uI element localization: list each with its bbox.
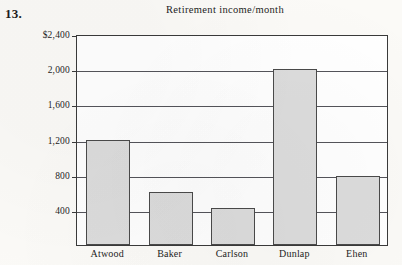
problem-number: 13. bbox=[5, 6, 22, 22]
x-axis-label-atwood: Atwood bbox=[90, 248, 123, 259]
y-axis-tick-label: 1,600 bbox=[14, 100, 70, 110]
x-axis-label-baker: Baker bbox=[157, 248, 182, 259]
bar-series bbox=[77, 36, 387, 245]
x-axis-label-carlson: Carlson bbox=[216, 248, 249, 259]
y-axis-tick-label: 2,000 bbox=[14, 65, 70, 75]
bar-carlson bbox=[211, 208, 255, 245]
x-axis-label-ehen: Ehen bbox=[346, 248, 367, 259]
y-axis-tick-label: $2,400 bbox=[14, 30, 70, 40]
y-axis-tick-label: 800 bbox=[14, 171, 70, 181]
x-axis-label-dunlap: Dunlap bbox=[279, 248, 310, 259]
y-axis-tick-labels: $2,4002,0001,6001,200800400 bbox=[14, 35, 70, 246]
y-axis-tick-label: 1,200 bbox=[14, 136, 70, 146]
bar-atwood bbox=[86, 140, 130, 246]
bar-ehen bbox=[336, 176, 380, 245]
x-axis-tick-labels: AtwoodBakerCarlsonDunlapEhen bbox=[76, 248, 388, 264]
plot-area bbox=[76, 35, 388, 246]
y-axis-tick-label: 400 bbox=[14, 206, 70, 216]
bar-dunlap bbox=[273, 69, 317, 245]
bar-baker bbox=[149, 192, 193, 245]
chart-title: Retirement income/month bbox=[60, 4, 390, 15]
